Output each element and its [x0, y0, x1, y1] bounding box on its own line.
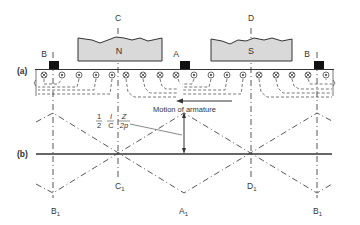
- formula-f3-num: Z: [121, 112, 127, 121]
- brush-a: [180, 61, 190, 70]
- formula-f3-den: 2p: [119, 121, 128, 130]
- label-b1-right: B1: [313, 206, 323, 217]
- conductor-dot-icon: [208, 72, 214, 78]
- conductor-cross-icon: [173, 72, 179, 78]
- conductors: [41, 72, 329, 78]
- formula-f2-num: I: [110, 112, 112, 121]
- brush-b-right: [314, 61, 324, 70]
- label-d1: D1: [247, 181, 257, 192]
- formula-leader-line: [130, 124, 182, 135]
- label-a1: A1: [179, 206, 189, 217]
- end-connections: [38, 79, 332, 97]
- formula: 1 2 I C Z 2p: [96, 112, 130, 130]
- bottom-labels: B1 C1 A1 D1 B1: [51, 181, 323, 217]
- conductor-dot-icon: [93, 72, 99, 78]
- conductor-dot-icon: [59, 72, 65, 78]
- brush-b-left: [49, 61, 59, 70]
- conductor-cross-icon: [273, 72, 279, 78]
- label-d: D: [248, 13, 254, 23]
- label-c: C: [115, 13, 121, 23]
- formula-f2-den: C: [108, 121, 114, 130]
- pole-label-n: N: [116, 46, 123, 56]
- brush-label-b-right: B: [304, 49, 310, 59]
- conductor-dot-icon: [109, 72, 115, 78]
- conductor-dot-icon: [323, 72, 329, 78]
- conductor-cross-icon: [140, 72, 146, 78]
- conductor-cross-icon: [305, 72, 311, 78]
- conductor-dot-icon: [191, 72, 197, 78]
- brush-label-b-left: B: [41, 49, 47, 59]
- conductor-dot-icon: [240, 72, 246, 78]
- formula-f1-num: 1: [97, 112, 101, 121]
- conductor-dot-icon: [76, 72, 82, 78]
- conductor-cross-icon: [41, 72, 47, 78]
- conductor-dot-icon: [224, 72, 230, 78]
- pole-label-s: S: [248, 46, 254, 56]
- motion-arrow-head-icon: [176, 99, 183, 104]
- armature-mmf-diagram: N S C D B A B (a): [0, 0, 360, 225]
- label-b1-left: B1: [51, 206, 61, 217]
- part-label-a: (a): [17, 66, 28, 76]
- conductor-cross-icon: [256, 72, 262, 78]
- label-c1: C1: [115, 181, 125, 192]
- formula-f1-den: 2: [97, 121, 101, 130]
- conductor-cross-icon: [157, 72, 163, 78]
- arrow-down-icon: [182, 148, 186, 154]
- conductor-cross-icon: [289, 72, 295, 78]
- motion-label: Motion of armature: [153, 105, 216, 114]
- brush-label-a: A: [173, 49, 179, 59]
- conductor-cross-icon: [123, 72, 129, 78]
- part-label-b: (b): [17, 149, 28, 159]
